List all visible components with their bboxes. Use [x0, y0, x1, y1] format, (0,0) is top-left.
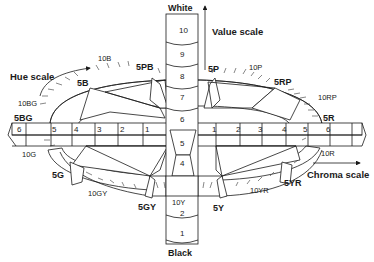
- hue-5GY: 5GY: [138, 202, 156, 212]
- value-10: 10: [179, 26, 188, 35]
- munsell-color-system-diagram: 10 9 8 7 6 5 4 2 1 White Black 6 5 4 3 2…: [0, 0, 374, 262]
- value-5: 5: [180, 139, 185, 148]
- hue-10R: 10R: [321, 149, 335, 158]
- value-4: 4: [180, 159, 185, 168]
- white-label: White: [168, 3, 193, 13]
- hue-10RP: 10RP: [318, 93, 337, 102]
- hue-10GY: 10GY: [88, 189, 107, 198]
- chroma-left-1: 1: [145, 125, 150, 134]
- hue-5BG: 5BG: [14, 113, 33, 123]
- hue-10G: 10G: [22, 150, 36, 159]
- value-9: 9: [180, 50, 185, 59]
- hue-5B: 5B: [77, 78, 89, 88]
- hue-scale-label: Hue scale: [10, 71, 54, 82]
- chroma-scale-indicator: Chroma scale: [307, 163, 369, 180]
- value-6: 6: [180, 115, 185, 124]
- chroma-right-3: 3: [258, 125, 263, 134]
- hue-10BG: 10BG: [18, 99, 37, 108]
- hue-5PB: 5PB: [136, 62, 154, 72]
- chroma-scale-label: Chroma scale: [307, 169, 369, 180]
- chroma-right-1: 1: [212, 125, 217, 134]
- hue-10P: 10P: [249, 63, 262, 72]
- chroma-right-5: 5: [303, 125, 308, 134]
- hue-5Y: 5Y: [213, 203, 224, 213]
- hue-10YR: 10YR: [250, 186, 269, 195]
- chroma-left-2: 2: [120, 125, 125, 134]
- hue-10Y: 10Y: [172, 198, 185, 207]
- hue-5G: 5G: [52, 170, 64, 180]
- hue-5RP: 5RP: [274, 77, 292, 87]
- chroma-left-3: 3: [97, 125, 102, 134]
- hue-5P: 5P: [208, 64, 219, 74]
- chroma-right-4: 4: [282, 125, 287, 134]
- hue-10B: 10B: [98, 54, 111, 63]
- black-label: Black: [168, 248, 193, 258]
- value-1: 1: [180, 229, 185, 238]
- value-2: 2: [180, 209, 185, 218]
- chroma-left-4: 4: [74, 125, 79, 134]
- chroma-right-6: 6: [326, 125, 331, 134]
- value-scale-label: Value scale: [212, 26, 263, 37]
- hue-5R: 5R: [323, 113, 335, 123]
- hue-5YR: 5YR: [284, 178, 302, 188]
- value-scale-indicator: Value scale: [205, 6, 263, 70]
- chroma-left-6: 6: [17, 125, 22, 134]
- chroma-right-2: 2: [236, 125, 241, 134]
- value-7: 7: [180, 93, 185, 102]
- chroma-left-5: 5: [52, 125, 57, 134]
- value-8: 8: [180, 72, 185, 81]
